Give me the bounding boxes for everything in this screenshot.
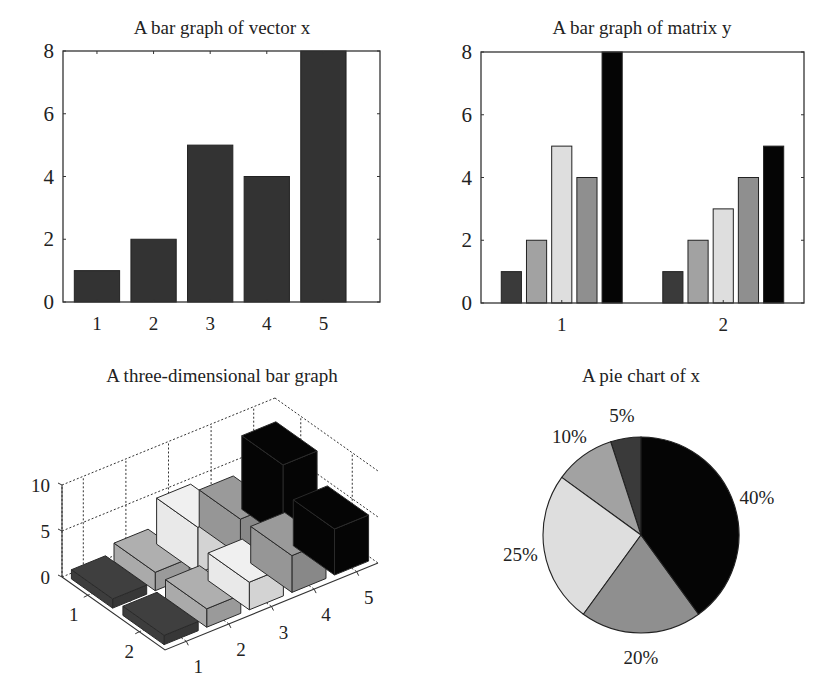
- z-tick-label: 5: [41, 521, 51, 542]
- bar: [244, 177, 289, 303]
- pie-slice-label: 25%: [503, 544, 538, 565]
- column-tick-label: 2: [236, 639, 246, 660]
- bar: [764, 146, 784, 303]
- z-tick: [58, 529, 62, 531]
- row-tick: [84, 595, 88, 597]
- bar: [526, 240, 546, 303]
- x-tick-label: 5: [319, 313, 329, 334]
- pie-slice-label: 40%: [740, 487, 775, 508]
- x-tick-label: 2: [719, 314, 729, 335]
- z-tick-label: 10: [31, 475, 50, 496]
- z-tick: [58, 575, 62, 577]
- y-tick-label: 4: [44, 165, 55, 189]
- x-tick-label: 1: [92, 313, 102, 334]
- bar: [688, 240, 708, 303]
- pie-chart: 5%10%25%20%40%: [503, 405, 775, 668]
- column-tick: [186, 641, 188, 645]
- x-tick-label: 1: [557, 314, 567, 335]
- column-tick: [314, 589, 316, 593]
- x-tick-label: 3: [205, 313, 215, 334]
- bar: [663, 272, 683, 303]
- bar-chart-matrix-y: 1202468: [462, 40, 805, 335]
- bar: [738, 178, 758, 304]
- y-tick-label: 2: [462, 228, 473, 252]
- z-tick-label: 0: [41, 567, 51, 588]
- row-tick-label: 1: [69, 604, 79, 625]
- pie-slice-label: 10%: [552, 426, 587, 447]
- column-tick-label: 1: [194, 656, 204, 677]
- bar: [552, 146, 572, 303]
- column-tick-label: 3: [279, 622, 289, 643]
- bar3-chart: 05101212345: [31, 398, 378, 677]
- y-tick-label: 0: [44, 290, 55, 314]
- bar: [713, 209, 733, 303]
- bar: [602, 52, 622, 303]
- bar: [74, 271, 119, 302]
- y-tick-label: 2: [44, 227, 55, 251]
- y-tick-label: 8: [462, 40, 473, 64]
- bar: [501, 272, 521, 303]
- column-tick: [272, 607, 274, 611]
- row-tick: [135, 632, 139, 634]
- bar: [301, 51, 346, 302]
- column-tick: [229, 624, 231, 628]
- figure-canvas: 12345024681202468051012123455%10%25%20%4…: [0, 0, 824, 692]
- column-tick-label: 4: [321, 604, 331, 625]
- x-tick-label: 4: [262, 313, 272, 334]
- bar-chart-vector-x: 1234502468: [44, 39, 381, 334]
- column-tick: [357, 572, 359, 576]
- y-tick-label: 6: [44, 102, 55, 126]
- y-tick-label: 6: [462, 103, 473, 127]
- row-tick-label: 2: [125, 641, 135, 662]
- z-tick: [58, 483, 62, 485]
- pie-slice-label: 20%: [624, 647, 659, 668]
- column-tick-label: 5: [364, 587, 374, 608]
- y-tick-label: 8: [44, 39, 55, 63]
- y-tick-label: 4: [462, 166, 473, 190]
- bar: [131, 239, 176, 302]
- bar: [188, 145, 233, 302]
- pie-slice-label: 5%: [609, 405, 635, 426]
- y-tick-label: 0: [462, 291, 473, 315]
- bar: [577, 178, 597, 304]
- x-tick-label: 2: [149, 313, 159, 334]
